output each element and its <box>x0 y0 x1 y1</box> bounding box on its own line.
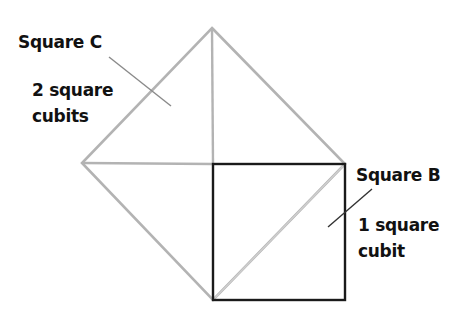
square-c-vertical-diagonal <box>212 28 213 164</box>
square-b-label: Square B <box>356 163 440 187</box>
square-c-area-line2: cubits <box>32 104 89 128</box>
square-c-horizontal-diagonal <box>82 163 213 164</box>
square-c-label: Square C <box>18 30 102 54</box>
square-b-area-line1: 1 square <box>358 213 439 237</box>
square-b-area-line2: cubit <box>358 239 405 263</box>
square-b-diagonal <box>213 164 345 300</box>
diagram-canvas: Square C 2 square cubits Square B 1 squa… <box>0 0 473 322</box>
square-c-area-line1: 2 square <box>32 78 113 102</box>
